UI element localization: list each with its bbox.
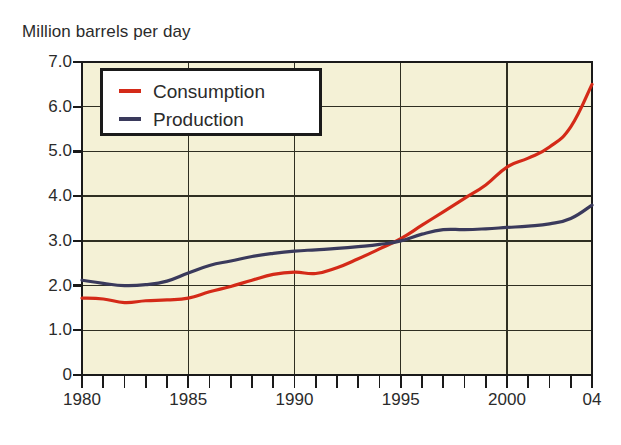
series-line-production <box>82 205 592 286</box>
y-tick-label: 5.0 <box>10 141 72 161</box>
x-tick-label: 1985 <box>169 390 207 410</box>
y-tick-label: 6.0 <box>10 97 72 117</box>
y-tick-label: 3.0 <box>10 231 72 251</box>
legend-item-consumption: Consumption <box>119 77 265 105</box>
x-axis: 1980198519901995200004 <box>82 390 592 416</box>
legend-swatch-consumption <box>119 89 141 93</box>
y-tick-label: 7.0 <box>10 52 72 72</box>
legend-label-production: Production <box>153 110 244 129</box>
x-tick-label: 1995 <box>382 390 420 410</box>
chart-figure: Million barrels per day 7.06.05.04.03.02… <box>0 0 621 445</box>
y-tick-label: 2.0 <box>10 276 72 296</box>
legend-label-consumption: Consumption <box>153 82 265 101</box>
chart-legend: Consumption Production <box>100 68 322 136</box>
y-axis: 7.06.05.04.03.02.01.00 <box>0 62 72 375</box>
chart-axis-title: Million barrels per day <box>22 22 191 42</box>
x-tick-label: 1990 <box>276 390 314 410</box>
x-tick-label: 2000 <box>488 390 526 410</box>
legend-item-production: Production <box>119 105 244 133</box>
legend-swatch-production <box>119 117 141 121</box>
y-tick-label: 4.0 <box>10 186 72 206</box>
y-tick-label: 0 <box>10 365 72 385</box>
y-tick-label: 1.0 <box>10 320 72 340</box>
x-tick-label: 1980 <box>63 390 101 410</box>
x-tick-label: 04 <box>583 390 602 410</box>
